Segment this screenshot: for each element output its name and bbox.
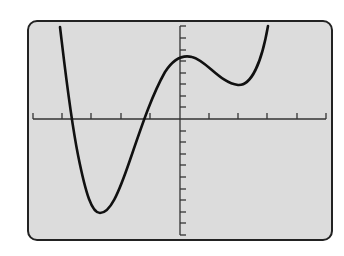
calculator-graph-screen — [0, 0, 344, 256]
